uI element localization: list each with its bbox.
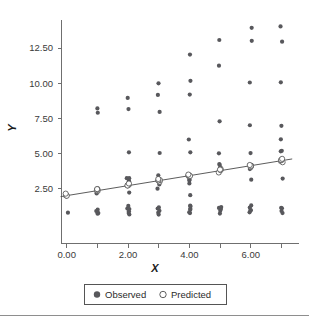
predicted-data-point	[186, 172, 191, 177]
legend-predicted-label: Predicted	[171, 289, 211, 300]
observed-data-point	[156, 81, 160, 85]
chart-legend: Observed Predicted	[85, 285, 227, 305]
observed-data-point	[279, 137, 283, 141]
observed-data-point	[248, 123, 252, 127]
observed-data-point	[248, 151, 252, 155]
observed-data-point	[96, 111, 100, 115]
y-tick-label: 5.00	[35, 148, 54, 159]
observed-data-point	[158, 110, 162, 114]
predicted-data-point	[280, 156, 285, 161]
observed-data-point	[188, 79, 192, 83]
observed-data-point	[217, 38, 221, 42]
y-tick-label: 2.50	[35, 183, 54, 194]
observed-data-point	[188, 193, 192, 197]
x-tick-label: 6.00	[242, 249, 261, 260]
observed-data-point	[279, 124, 283, 128]
y-tick-label: 12.50	[29, 42, 53, 53]
observed-data-point	[96, 208, 100, 212]
observed-data-point	[250, 26, 254, 30]
observed-data-point	[188, 52, 192, 56]
predicted-data-point	[247, 162, 252, 167]
y-tick-label: 7.50	[35, 113, 54, 124]
observed-data-point	[249, 203, 253, 207]
legend-observed-label: Observed	[105, 289, 146, 300]
observed-data-point	[217, 64, 221, 68]
predicted-data-point	[217, 167, 222, 172]
x-axis-title: X	[150, 262, 159, 274]
predicted-data-point	[156, 176, 161, 181]
x-tick-label: 4.00	[180, 249, 199, 260]
observed-data-point	[279, 80, 283, 84]
observed-data-point	[126, 204, 130, 208]
observed-data-point	[217, 151, 221, 155]
predicted-data-point	[95, 187, 100, 192]
observed-data-point	[280, 149, 284, 153]
observed-data-point	[217, 119, 221, 123]
observed-data-point	[157, 205, 161, 209]
observed-data-point	[187, 137, 191, 141]
scatter-plot-figure: 2.505.007.5010.0012.50 0.002.004.006.00 …	[0, 0, 309, 324]
observed-data-point	[217, 162, 221, 166]
observed-data-point	[280, 40, 284, 44]
y-tick-label: 10.00	[29, 78, 53, 89]
observed-data-point	[188, 203, 192, 207]
observed-data-point	[278, 24, 282, 28]
observed-data-point	[155, 187, 159, 191]
observed-data-point	[66, 211, 70, 215]
observed-data-point	[127, 191, 131, 195]
observed-data-point	[156, 93, 160, 97]
observed-data-point	[126, 96, 130, 100]
observed-data-point	[126, 107, 130, 111]
observed-data-point	[281, 176, 285, 180]
observed-data-point	[127, 150, 131, 154]
observed-data-point	[95, 106, 99, 110]
x-tick-label: 0.00	[57, 249, 76, 260]
plot-canvas: 2.505.007.5010.0012.50 0.002.004.006.00 …	[0, 0, 309, 324]
observed-data-point	[219, 205, 223, 209]
legend-predicted-marker-icon	[160, 291, 166, 297]
observed-data-point	[158, 151, 162, 155]
legend-observed-marker-icon	[94, 291, 100, 297]
x-tick-label: 2.00	[119, 249, 138, 260]
observed-data-point	[188, 92, 192, 96]
predicted-data-point	[63, 191, 68, 196]
observed-data-point	[188, 150, 192, 154]
observed-data-point	[248, 80, 252, 84]
predicted-data-point	[126, 181, 131, 186]
observed-data-point	[250, 39, 254, 43]
observed-data-point	[249, 178, 253, 182]
observed-data-point	[279, 206, 283, 210]
